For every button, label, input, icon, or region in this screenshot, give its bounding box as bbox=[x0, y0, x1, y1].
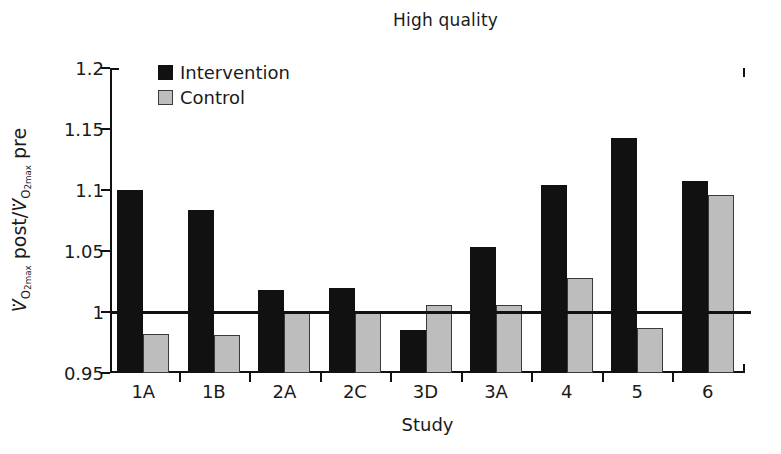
y-tick-mark bbox=[101, 189, 110, 191]
legend-item-control: Control bbox=[158, 85, 290, 110]
legend-item-intervention: Intervention bbox=[158, 60, 290, 85]
y-tick-mark bbox=[101, 372, 110, 374]
v-dot-1: ·V bbox=[10, 299, 29, 312]
x-tick-label-1A: 1A bbox=[131, 381, 155, 402]
plot-area bbox=[110, 68, 745, 373]
x-tick-mark bbox=[179, 373, 181, 382]
x-tick-mark bbox=[461, 373, 463, 382]
x-tick-mark bbox=[390, 373, 392, 382]
bar-intervention-4 bbox=[541, 185, 567, 373]
v-dot-2: ·V bbox=[10, 199, 29, 212]
x-tick-label-2A: 2A bbox=[272, 381, 296, 402]
x-tick-label-5: 5 bbox=[631, 381, 642, 402]
x-tick-label-3A: 3A bbox=[484, 381, 508, 402]
x-axis-title: Study bbox=[110, 414, 745, 435]
x-tick-label-3D: 3D bbox=[413, 381, 438, 402]
y-axis-title-text: ·VO2max post/·VO2max pre bbox=[10, 128, 29, 312]
y-tick-label: 1.15 bbox=[42, 119, 104, 140]
x-tick-mark bbox=[320, 373, 322, 382]
chart-legend: Intervention Control bbox=[158, 60, 290, 110]
bar-control-3D bbox=[426, 305, 452, 373]
axis-corner-right-bottom bbox=[743, 364, 745, 373]
x-tick-label-2C: 2C bbox=[343, 381, 367, 402]
bar-control-1A bbox=[143, 334, 169, 373]
bar-intervention-2A bbox=[258, 290, 284, 373]
bar-intervention-3A bbox=[470, 247, 496, 373]
x-tick-label-6: 6 bbox=[702, 381, 713, 402]
legend-label-control: Control bbox=[180, 87, 245, 108]
bar-intervention-2C bbox=[329, 288, 355, 373]
bar-control-5 bbox=[637, 328, 663, 373]
axis-corner-top bbox=[110, 68, 119, 70]
bar-intervention-1B bbox=[188, 210, 214, 373]
y-axis-spine bbox=[110, 68, 112, 373]
chart-figure: High quality ·VO2max post/·VO2max pre 0.… bbox=[0, 0, 781, 454]
y-tick-mark bbox=[101, 128, 110, 130]
bar-intervention-6 bbox=[682, 181, 708, 373]
x-tick-mark bbox=[602, 373, 604, 382]
y-axis-title: ·VO2max post/·VO2max pre bbox=[2, 60, 36, 380]
y-tick-label: 1.05 bbox=[42, 241, 104, 262]
y-tick-mark bbox=[101, 311, 110, 313]
x-tick-label-1B: 1B bbox=[202, 381, 226, 402]
x-tick-mark bbox=[672, 373, 674, 382]
bar-intervention-1A bbox=[117, 190, 143, 373]
x-tick-label-4: 4 bbox=[561, 381, 572, 402]
bar-control-3A bbox=[496, 305, 522, 373]
legend-label-intervention: Intervention bbox=[180, 62, 290, 83]
bar-intervention-5 bbox=[611, 138, 637, 373]
bar-control-4 bbox=[567, 278, 593, 373]
bar-control-2C bbox=[355, 311, 381, 373]
x-tick-mark bbox=[531, 373, 533, 382]
y-tick-label: 0.95 bbox=[42, 363, 104, 384]
y-tick-mark bbox=[101, 67, 110, 69]
x-tick-mark bbox=[249, 373, 251, 382]
y-tick-mark bbox=[101, 250, 110, 252]
chart-title: High quality bbox=[0, 10, 781, 30]
y-tick-label: 1.2 bbox=[42, 58, 104, 79]
y-tick-label: 1.1 bbox=[42, 180, 104, 201]
axis-corner-right-top bbox=[743, 68, 745, 77]
y-tick-label: 1 bbox=[42, 302, 104, 323]
bar-intervention-3D bbox=[400, 330, 426, 373]
legend-swatch-intervention bbox=[158, 65, 173, 80]
bar-control-1B bbox=[214, 335, 240, 373]
bar-control-2A bbox=[284, 311, 310, 373]
legend-swatch-control bbox=[158, 90, 173, 105]
y-axis-tick-labels: 0.9511.051.11.151.2 bbox=[40, 0, 104, 454]
bar-control-6 bbox=[708, 195, 734, 373]
